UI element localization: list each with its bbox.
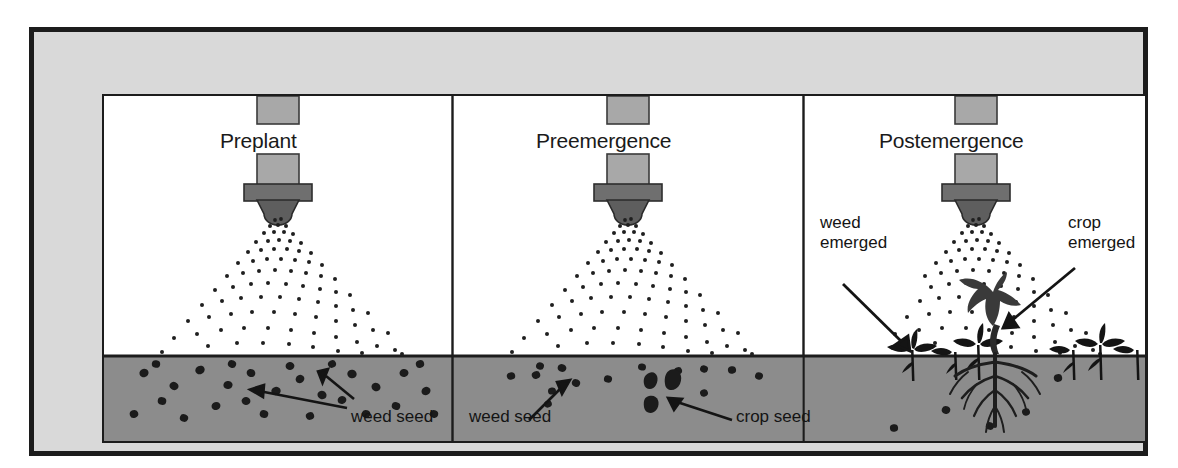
callout-weed-emerged: weed emerged xyxy=(820,213,887,253)
spray-droplets-icon-preemergence xyxy=(510,217,754,356)
soil-band-preemergence xyxy=(453,356,802,441)
diagram-stage-inner: Preplant Preemergence Postemergence weed… xyxy=(104,96,1145,441)
callout-weed-emerged-line2: emerged xyxy=(820,233,887,253)
soil-band-postemergence xyxy=(803,356,1145,441)
callout-weed-seed-preemergence: weed seed xyxy=(469,407,551,427)
callout-weed-emerged-line1: weed xyxy=(820,213,887,233)
callout-weed-seed-preplant: weed seed xyxy=(351,407,433,427)
spray-nozzle-icon-preemergence xyxy=(594,96,662,225)
callout-crop-emerged-line1: crop xyxy=(1068,213,1135,233)
callout-crop-seed-preemergence: crop seed xyxy=(736,407,811,427)
spray-droplets-icon-preplant xyxy=(160,217,404,356)
diagram-stage: Preplant Preemergence Postemergence weed… xyxy=(102,94,1147,443)
arrow-icon-crop-emerged xyxy=(1003,268,1075,328)
figure-root: Preplant Preemergence Postemergence weed… xyxy=(0,0,1178,468)
outer-frame: Preplant Preemergence Postemergence weed… xyxy=(29,27,1148,456)
soil-band-preplant xyxy=(104,356,452,441)
spray-nozzle-icon-postemergence xyxy=(942,96,1010,225)
panel-title-postemergence: Postemergence xyxy=(879,129,1023,153)
callout-crop-emerged-line2: emerged xyxy=(1068,233,1135,253)
arrow-icon-weed-emerged xyxy=(843,284,910,351)
crop-seedling-icon xyxy=(950,272,1040,432)
panel-title-preemergence: Preemergence xyxy=(536,129,671,153)
panel-title-preplant: Preplant xyxy=(220,129,297,153)
callout-crop-emerged: crop emerged xyxy=(1068,213,1135,253)
spray-nozzle-icon-preplant xyxy=(244,96,312,225)
